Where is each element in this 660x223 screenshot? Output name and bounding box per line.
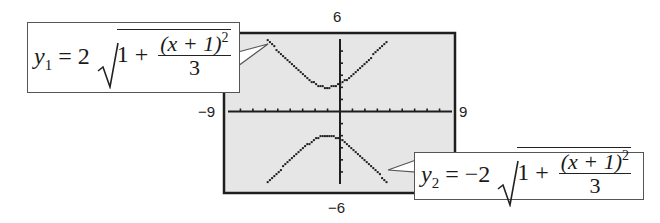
curve-y1-pixel xyxy=(379,47,381,49)
eq-one-plus: 1 + xyxy=(117,41,155,67)
curve-y2-pixel xyxy=(271,177,273,179)
curve-y1-pixel xyxy=(368,59,370,61)
curve-y2-pixel xyxy=(313,139,315,141)
eq-numerator: (x + 1) xyxy=(561,149,622,174)
curve-y1-pixel xyxy=(386,41,388,43)
curve-y2-pixel xyxy=(284,163,286,165)
curve-y1-pixel xyxy=(331,85,333,87)
curve-y1-pixel xyxy=(293,65,295,67)
curve-y1-pixel xyxy=(361,65,363,67)
curve-y1-pixel xyxy=(344,79,346,81)
curve-y2-pixel xyxy=(331,135,333,137)
curve-y1-pixel xyxy=(383,43,385,45)
curve-y1-pixel xyxy=(278,51,280,53)
curve-y1-pixel xyxy=(335,85,337,87)
curve-y2-pixel xyxy=(337,137,339,139)
curve-y2-pixel xyxy=(361,157,363,159)
curve-y2-pixel xyxy=(335,137,337,139)
curve-y2-pixel xyxy=(344,141,346,143)
curve-y1-pixel xyxy=(273,45,275,47)
curve-y1-pixel xyxy=(313,81,315,83)
curve-y2-pixel xyxy=(278,171,280,173)
equation-y1: y1 = 2 1 + (x + 1)23 xyxy=(34,33,231,84)
curve-y2-pixel xyxy=(298,151,300,153)
curve-y2-pixel xyxy=(315,137,317,139)
curve-y1-pixel xyxy=(348,77,350,79)
curve-y2-pixel xyxy=(311,141,313,143)
curve-y2-pixel xyxy=(350,147,352,149)
curve-y1-pixel xyxy=(364,63,366,65)
curve-y1-pixel xyxy=(282,55,284,57)
curve-y1-pixel xyxy=(359,67,361,69)
curve-y1-pixel xyxy=(300,71,302,73)
x-max-label: 9 xyxy=(459,104,467,119)
eq-numerator: (x + 1) xyxy=(160,31,221,56)
eq-exponent: 2 xyxy=(222,30,229,45)
curve-y1-pixel xyxy=(317,85,319,87)
eq-coef: = −2 xyxy=(439,161,490,187)
curve-y1-pixel xyxy=(291,63,293,65)
curve-y1-pixel xyxy=(377,49,379,51)
curve-y1-pixel xyxy=(298,69,300,71)
curve-y2-pixel xyxy=(289,159,291,161)
callout-y2: y2 = −2 1 + (x + 1)23 xyxy=(414,152,644,200)
equation-y2: y2 = −2 1 + (x + 1)23 xyxy=(421,151,631,202)
curve-y2-pixel xyxy=(368,163,370,165)
curve-y1-pixel xyxy=(370,57,372,59)
curve-y1-pixel xyxy=(342,81,344,83)
curve-y1-pixel xyxy=(333,85,335,87)
curve-y1-pixel xyxy=(276,49,278,51)
curve-y2-pixel xyxy=(317,137,319,139)
eq-denominator: 3 xyxy=(559,174,631,198)
curve-y2-pixel xyxy=(280,169,282,171)
curve-y2-pixel xyxy=(302,147,304,149)
curve-y1-pixel xyxy=(357,69,359,71)
eq-one-plus: 1 + xyxy=(517,159,555,185)
y-max-label: 6 xyxy=(333,9,341,24)
curve-y2-pixel xyxy=(300,149,302,151)
eq-subscript: 2 xyxy=(432,175,440,191)
curve-y1-pixel xyxy=(322,85,324,87)
curve-y2-pixel xyxy=(273,175,275,177)
curve-y2-pixel xyxy=(346,143,348,145)
curve-y2-pixel xyxy=(355,151,357,153)
curve-y1-pixel xyxy=(302,73,304,75)
curve-y2-pixel xyxy=(328,135,330,137)
curve-y1-pixel xyxy=(337,83,339,85)
curve-y1-pixel xyxy=(284,57,286,59)
curve-y1-pixel xyxy=(287,59,289,61)
curve-y1-pixel xyxy=(309,79,311,81)
curve-y2-pixel xyxy=(339,139,341,141)
y-min-label: −6 xyxy=(328,200,345,215)
curve-y1-pixel xyxy=(304,75,306,77)
curve-y2-pixel xyxy=(309,143,311,145)
curve-y2-pixel xyxy=(269,179,271,181)
curve-y2-pixel xyxy=(324,135,326,137)
eq-subscript: 1 xyxy=(45,57,53,73)
curve-y2-pixel xyxy=(304,145,306,147)
curve-y1-pixel xyxy=(355,71,357,73)
curve-y1-pixel xyxy=(269,41,271,43)
curve-y1-pixel xyxy=(339,83,341,85)
curve-y1-pixel xyxy=(346,79,348,81)
curve-y2-pixel xyxy=(375,169,377,171)
curve-y2-pixel xyxy=(306,143,308,145)
curve-y1-pixel xyxy=(315,83,317,85)
curve-y1-pixel xyxy=(372,53,374,55)
eq-exponent: 2 xyxy=(622,148,629,163)
curve-y1-pixel xyxy=(353,73,355,75)
curve-y2-pixel xyxy=(359,155,361,157)
curve-y1-pixel xyxy=(311,81,313,83)
curve-y2-pixel xyxy=(353,149,355,151)
curve-y2-pixel xyxy=(276,173,278,175)
eq-denominator: 3 xyxy=(158,56,230,80)
curve-y2-pixel xyxy=(287,161,289,163)
curve-y2-pixel xyxy=(381,177,383,179)
curve-y1-pixel xyxy=(328,87,330,89)
curve-y2-pixel xyxy=(366,161,368,163)
curve-y2-pixel xyxy=(293,155,295,157)
callout-y1: y1 = 2 1 + (x + 1)23 xyxy=(27,22,240,93)
curve-y2-pixel xyxy=(357,153,359,155)
curve-y2-pixel xyxy=(370,165,372,167)
curve-y2-pixel xyxy=(322,135,324,137)
